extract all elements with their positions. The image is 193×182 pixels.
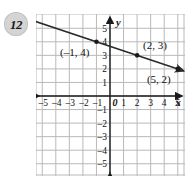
x-axis-label: x: [174, 97, 180, 108]
y-tick-label: 1: [102, 78, 107, 88]
x-tick-label: 2: [135, 98, 140, 108]
y-tick-label: –5: [97, 159, 108, 169]
problem-number-badge: 12: [4, 12, 28, 36]
data-point: [135, 53, 140, 58]
problem-number-text: 12: [10, 18, 22, 31]
x-tick-label: –2: [78, 98, 89, 108]
point-coordinate-label: (–1, 4): [60, 46, 90, 59]
y-tick-label: 2: [102, 64, 107, 74]
data-point: [175, 67, 180, 72]
point-labels-group: (–1, 4)(2, 3)(5, 2): [60, 39, 171, 86]
coordinate-plane-svg: –5–4–3–2–101234554321–1–2–3–4–5 (–1, 4)(…: [36, 14, 185, 176]
x-tick-label-origin: 0: [113, 97, 118, 108]
data-point: [94, 40, 99, 45]
x-tick-label: –4: [51, 98, 62, 108]
y-tick-label: 3: [102, 51, 107, 61]
y-axis-label: y: [114, 17, 121, 28]
y-tick-label: –3: [97, 132, 108, 142]
point-coordinate-label: (2, 3): [143, 39, 167, 52]
y-tick-label: –1: [97, 105, 108, 115]
y-tick-label: –4: [97, 146, 108, 156]
point-coordinate-label: (5, 2): [147, 73, 171, 86]
x-tick-label: –5: [38, 98, 49, 108]
y-tick-label: –2: [97, 119, 108, 129]
x-tick-label: 4: [162, 98, 167, 108]
coordinate-graph: –5–4–3–2–101234554321–1–2–3–4–5 (–1, 4)(…: [36, 14, 185, 176]
y-tick-label: 5: [102, 24, 107, 34]
x-tick-label: 1: [121, 98, 126, 108]
x-tick-label: –3: [65, 98, 76, 108]
x-tick-label: 3: [148, 98, 153, 108]
